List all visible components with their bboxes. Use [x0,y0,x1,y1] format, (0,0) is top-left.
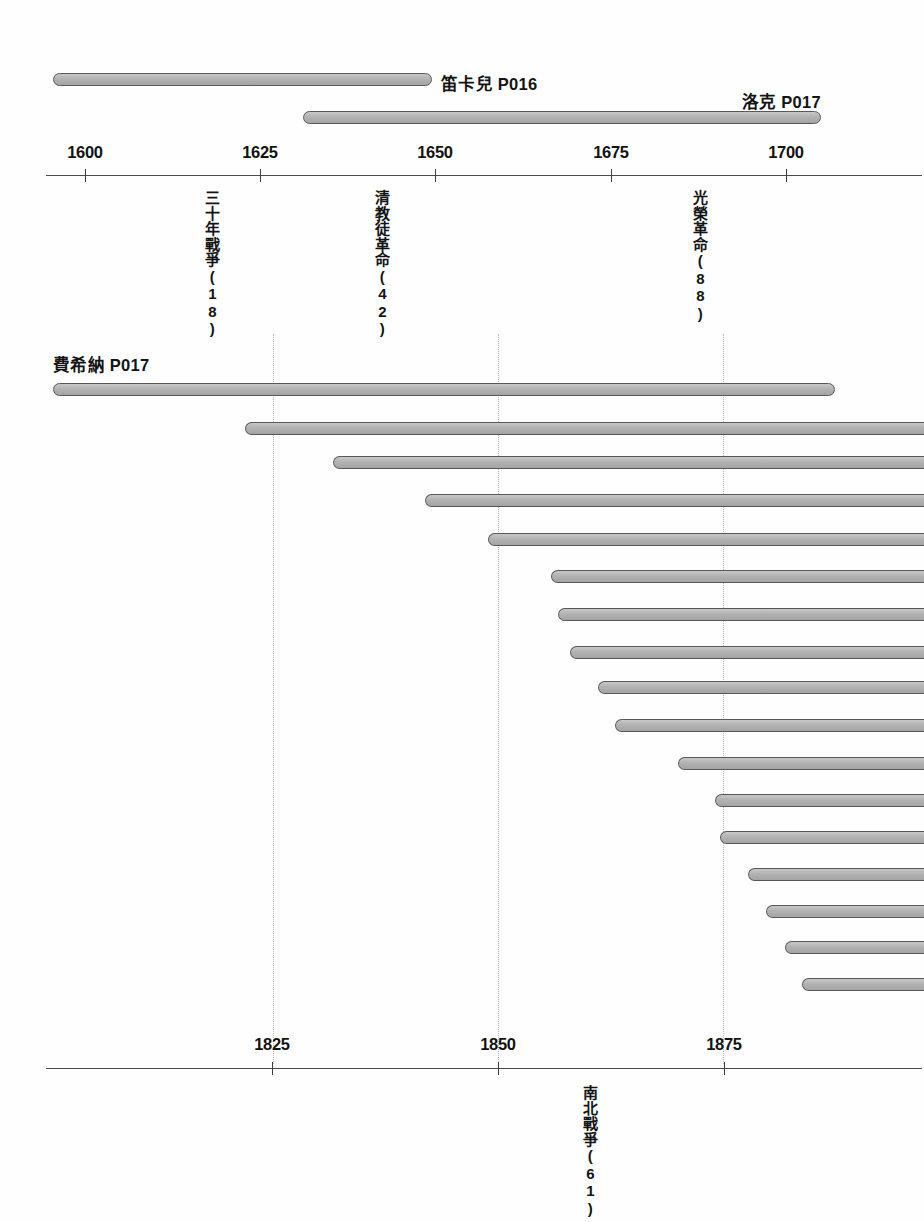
lifespan-bar-fechner[interactable] [53,383,835,396]
lifespan-bar-8[interactable] [570,646,924,659]
event-label-glorious-revolution: 光榮革命(88) [692,190,708,322]
event-label-civil-war: 南北戰爭(61) [582,1085,598,1217]
upper-tick-label-1600: 1600 [67,143,103,162]
lifespan-bar-15[interactable] [766,905,924,918]
lifespan-bar-6[interactable] [551,570,924,583]
bar-label-descartes: 笛卡兒 P016 [441,71,538,95]
lifespan-bar-3[interactable] [333,456,924,469]
gridline-1875 [723,334,724,1064]
event-label-thirty-years-war: 三十年戰爭(18) [204,190,220,338]
upper-tick-1675 [611,169,612,182]
lifespan-bar-2[interactable] [245,422,924,435]
lower-tick-1850 [498,1062,499,1075]
lifespan-bar-12[interactable] [715,794,924,807]
lifespan-bar-descartes[interactable] [53,73,432,86]
lifespan-bar-11[interactable] [678,757,924,770]
lifespan-bar-14[interactable] [748,868,924,881]
lifespan-bar-4[interactable] [425,494,924,507]
gridline-1825 [273,334,274,1064]
bar-label-locke: 洛克 P017 [742,89,821,113]
lower-tick-1875 [724,1062,725,1075]
lower-tick-label-1875: 1875 [706,1035,742,1054]
lifespan-bar-13[interactable] [720,831,924,844]
upper-tick-label-1650: 1650 [417,143,453,162]
lifespan-bar-7[interactable] [558,608,924,621]
lifespan-bar-9[interactable] [598,681,924,694]
lower-tick-label-1825: 1825 [254,1035,290,1054]
lower-tick-label-1850: 1850 [480,1035,516,1054]
lower-axis-line [46,1068,922,1069]
upper-axis-line [46,175,922,176]
upper-tick-1700 [786,169,787,182]
upper-tick-label-1675: 1675 [593,143,629,162]
lower-tick-1825 [272,1062,273,1075]
timeline-chart-page: 笛卡兒 P016 洛克 P017 1600 1625 1650 1675 170… [0,0,924,1222]
upper-tick-label-1700: 1700 [768,143,804,162]
upper-tick-label-1625: 1625 [242,143,278,162]
lifespan-bar-16[interactable] [785,941,924,954]
event-label-puritan-revolution: 清教徒革命(42) [374,190,390,338]
lifespan-bar-17[interactable] [802,978,924,991]
gridline-1850 [498,334,499,1064]
bar-label-fechner: 費希納 P017 [53,352,150,376]
upper-tick-1600 [85,169,86,182]
upper-tick-1625 [260,169,261,182]
upper-tick-1650 [435,169,436,182]
lifespan-bar-5[interactable] [488,533,924,546]
lifespan-bar-10[interactable] [615,719,924,732]
